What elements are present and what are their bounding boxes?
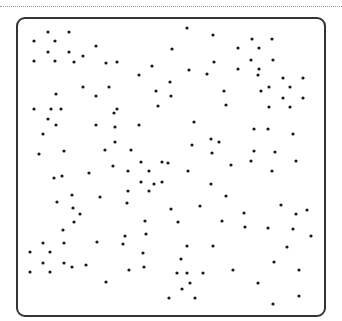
dot bbox=[160, 180, 163, 183]
dot bbox=[53, 39, 56, 42]
dot bbox=[252, 127, 255, 130]
dot bbox=[270, 169, 273, 172]
dot bbox=[231, 268, 234, 271]
dot bbox=[270, 37, 273, 40]
dot bbox=[160, 160, 163, 163]
dot bbox=[291, 227, 294, 230]
dot bbox=[217, 140, 220, 143]
dot bbox=[205, 72, 208, 75]
dot bbox=[94, 123, 97, 126]
dot bbox=[193, 296, 196, 299]
dot bbox=[271, 58, 274, 61]
dot bbox=[257, 46, 260, 49]
dot bbox=[281, 96, 284, 99]
dot bbox=[59, 107, 62, 110]
dot bbox=[297, 294, 300, 297]
dot bbox=[243, 225, 246, 228]
dot bbox=[104, 61, 107, 64]
dot bbox=[126, 169, 129, 172]
dot bbox=[144, 232, 147, 235]
dot bbox=[256, 281, 259, 284]
dot bbox=[294, 159, 297, 162]
dot bbox=[272, 260, 275, 263]
dot bbox=[267, 105, 270, 108]
dot bbox=[152, 182, 155, 185]
dot bbox=[212, 60, 215, 63]
dot bbox=[62, 261, 65, 264]
dot bbox=[229, 163, 232, 166]
dot bbox=[169, 94, 172, 97]
dot bbox=[249, 159, 252, 162]
dot bbox=[267, 85, 270, 88]
dot bbox=[32, 59, 35, 62]
dot bbox=[143, 219, 146, 222]
dot bbox=[156, 104, 159, 107]
dot bbox=[115, 107, 118, 110]
dot bbox=[250, 37, 253, 40]
dot bbox=[125, 201, 128, 204]
dot bbox=[154, 89, 157, 92]
dot bbox=[46, 117, 49, 120]
dot bbox=[41, 132, 44, 135]
dot bbox=[67, 30, 70, 33]
dot bbox=[236, 46, 239, 49]
dot bbox=[103, 148, 106, 151]
scattered-dots bbox=[0, 0, 342, 321]
dot bbox=[67, 50, 70, 53]
dot bbox=[72, 60, 75, 63]
dot bbox=[87, 171, 90, 174]
dot bbox=[129, 148, 132, 151]
dot bbox=[126, 189, 129, 192]
dot bbox=[49, 107, 52, 110]
dot bbox=[167, 296, 170, 299]
dot bbox=[53, 59, 56, 62]
dot bbox=[305, 208, 308, 211]
dot bbox=[62, 149, 65, 152]
dot bbox=[188, 281, 191, 284]
dot bbox=[121, 242, 124, 245]
dot bbox=[137, 123, 140, 126]
dot bbox=[147, 189, 150, 192]
dot bbox=[211, 244, 214, 247]
dot bbox=[266, 127, 269, 130]
dot bbox=[32, 39, 35, 42]
dot bbox=[28, 250, 31, 253]
dot bbox=[123, 234, 126, 237]
dot bbox=[170, 47, 173, 50]
dot bbox=[81, 54, 84, 57]
dot bbox=[210, 151, 213, 154]
dot bbox=[294, 212, 297, 215]
dot bbox=[94, 44, 97, 47]
dot bbox=[48, 270, 51, 273]
dot bbox=[28, 270, 31, 273]
dot bbox=[98, 195, 101, 198]
dot bbox=[236, 67, 239, 70]
dot bbox=[222, 89, 225, 92]
dot bbox=[291, 132, 294, 135]
dot bbox=[256, 73, 259, 76]
dot bbox=[209, 137, 212, 140]
dot bbox=[288, 85, 291, 88]
dot bbox=[84, 263, 87, 266]
dot bbox=[127, 268, 130, 271]
dot bbox=[185, 244, 188, 247]
dot bbox=[192, 120, 195, 123]
dot bbox=[252, 149, 255, 152]
dot bbox=[81, 85, 84, 88]
dot bbox=[301, 76, 304, 79]
dot bbox=[48, 250, 51, 253]
dot bbox=[185, 271, 188, 274]
dot bbox=[288, 105, 291, 108]
dot bbox=[147, 169, 150, 172]
dot bbox=[46, 30, 49, 33]
dot bbox=[297, 268, 300, 271]
dot bbox=[52, 176, 55, 179]
dot bbox=[111, 164, 114, 167]
dot bbox=[41, 261, 44, 264]
dot bbox=[104, 280, 107, 283]
dot bbox=[94, 94, 97, 97]
dot bbox=[185, 26, 188, 29]
dot bbox=[137, 73, 140, 76]
dot bbox=[180, 287, 183, 290]
dot bbox=[186, 169, 189, 172]
